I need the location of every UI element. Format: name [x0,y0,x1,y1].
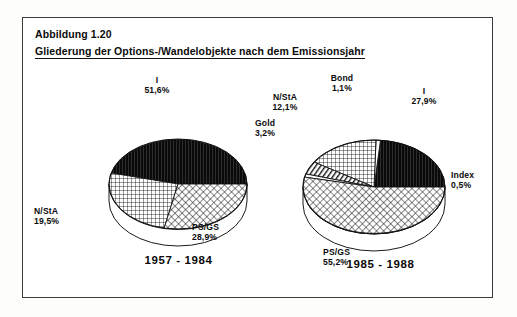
pie-left-label-psgs-value: 28,9% [192,232,254,242]
pie-right-label-bond-value: 1,1% [313,83,371,93]
pie-right-label-gold-name: Gold [238,118,292,128]
figure-frame: Abbildung 1.20 Gliederung der Options-/W… [22,17,493,298]
pie-left-label-i-name: I [127,75,187,85]
pie-left-label-nsta-name: N/StA [34,206,94,216]
pie-left-label-i: I 51,6% [127,75,187,96]
pie-right-label-index-name: Index [451,170,499,180]
pie-right-label-psgs-name: PS/GS [323,247,385,257]
pie-right-label-i: I 27,9% [399,86,449,107]
pie-left-label-i-value: 51,6% [127,85,187,95]
pie-left-label-psgs: PS/GS 28,9% [192,222,254,243]
pie-left-label-nsta: N/StA 19,5% [34,206,94,227]
chart-area: I 51,6% N/StA 19,5% PS/GS 28,9% 1957 - 1… [23,18,494,299]
pie-right-label-index-value: 0,5% [451,180,499,190]
pie-left-caption: 1957 - 1984 [106,254,251,266]
pie-right-label-i-name: I [399,86,449,96]
pie-right-label-i-value: 27,9% [399,96,449,106]
pie-right-label-bond-name: Bond [313,73,371,83]
pie-right-slice-i[interactable] [374,140,445,187]
pie-right-label-nsta-name: N/StA [256,92,314,102]
figure-root: Abbildung 1.20 Gliederung der Options-/W… [0,0,517,317]
pie-left-label-psgs-name: PS/GS [192,222,254,232]
pie-right-label-bond: Bond 1,1% [313,73,371,94]
pie-right-label-nsta-value: 12,1% [256,102,314,112]
pie-left-label-nsta-value: 19,5% [34,216,94,226]
pie-charts-svg [23,18,494,299]
pie-right-label-gold-value: 3,2% [238,128,292,138]
pie-right-caption: 1985 - 1988 [308,258,453,270]
pie-chart-right [303,140,445,251]
pie-right-label-index: Index 0,5% [451,170,499,191]
pie-right-label-nsta: N/StA 12,1% [256,92,314,113]
pie-right-label-gold: Gold 3,2% [238,118,292,139]
